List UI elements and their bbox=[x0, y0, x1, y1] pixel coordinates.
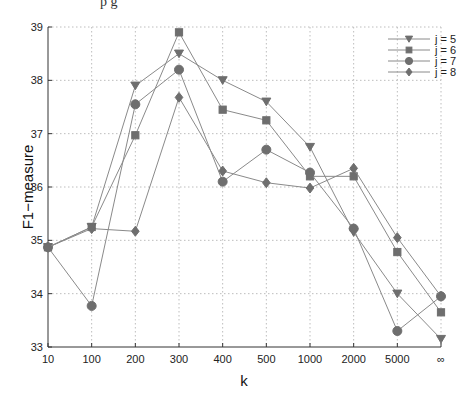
data-point-square bbox=[175, 29, 182, 36]
y-tick-label: 37 bbox=[31, 128, 43, 140]
data-point-circle bbox=[131, 100, 140, 109]
x-tick-label: 5000 bbox=[385, 353, 409, 365]
y-tick-label: 34 bbox=[31, 288, 43, 300]
data-point-circle bbox=[393, 327, 402, 336]
f1-measure-line-chart: p g 333435363738391010020030040050010002… bbox=[0, 0, 466, 398]
data-point-diamond bbox=[175, 92, 183, 102]
data-point-square bbox=[406, 47, 412, 53]
data-point-square bbox=[394, 248, 401, 255]
x-tick-label: 500 bbox=[257, 353, 275, 365]
legend: j = 5j = 6j = 7j = 8 bbox=[388, 33, 456, 78]
data-point-square bbox=[132, 132, 139, 139]
series-line bbox=[48, 32, 441, 312]
series-line bbox=[48, 97, 441, 296]
data-point-circle bbox=[349, 224, 358, 233]
y-tick-label: 35 bbox=[31, 234, 43, 246]
data-point-circle bbox=[87, 301, 96, 310]
x-axis-label: k bbox=[240, 372, 248, 389]
series-j6 bbox=[44, 29, 444, 316]
series-line bbox=[48, 70, 441, 331]
data-point-diamond bbox=[406, 68, 412, 76]
x-tick-label: 400 bbox=[213, 353, 231, 365]
data-series bbox=[44, 29, 446, 343]
partial-top-text: p g bbox=[100, 0, 118, 9]
data-point-diamond bbox=[263, 178, 271, 188]
y-tick-label: 38 bbox=[31, 74, 43, 86]
x-tick-label: 100 bbox=[82, 353, 100, 365]
data-point-circle bbox=[175, 65, 184, 74]
data-point-circle bbox=[405, 57, 412, 64]
data-point-square bbox=[263, 117, 270, 124]
data-point-square bbox=[437, 309, 444, 316]
data-point-diamond bbox=[306, 183, 314, 193]
x-tick-label: ∞ bbox=[437, 353, 445, 365]
data-point-circle bbox=[218, 177, 227, 186]
legend-item: j = 8 bbox=[388, 66, 456, 78]
data-point-circle bbox=[262, 145, 271, 154]
data-point-triangle-down bbox=[131, 82, 140, 90]
data-point-triangle-down bbox=[437, 335, 446, 343]
y-tick-label: 33 bbox=[31, 341, 43, 353]
y-tick-label: 39 bbox=[31, 21, 43, 33]
grid-lines bbox=[48, 27, 441, 347]
y-axis-label: F1−measure bbox=[19, 145, 36, 230]
data-point-diamond bbox=[132, 226, 140, 236]
x-tick-label: 1000 bbox=[298, 353, 322, 365]
series-j8 bbox=[44, 92, 445, 301]
axes: 3334353637383910100200300400500100020005… bbox=[31, 21, 445, 365]
x-tick-label: 300 bbox=[170, 353, 188, 365]
data-point-triangle-down bbox=[218, 77, 227, 85]
legend-label: j = 8 bbox=[434, 66, 456, 78]
x-tick-label: 2000 bbox=[341, 353, 365, 365]
x-tick-label: 10 bbox=[42, 353, 54, 365]
x-tick-label: 200 bbox=[126, 353, 144, 365]
series-j7 bbox=[44, 65, 446, 335]
data-point-square bbox=[219, 106, 226, 113]
series-j5 bbox=[44, 50, 446, 343]
data-point-circle bbox=[306, 168, 315, 177]
data-point-triangle-down bbox=[306, 143, 315, 151]
